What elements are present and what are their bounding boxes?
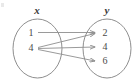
mapping-diagram-figure: x y 1 4 2 4 6 [0,0,134,84]
mapping-diagram-canvas: x y 1 4 2 4 6 [0,0,134,84]
range-set-label: y [103,4,110,16]
range-element-4: 4 [103,41,108,52]
figure-background [0,0,134,84]
range-element-6: 6 [103,55,108,66]
domain-element-4: 4 [29,42,34,53]
domain-element-1: 1 [29,27,34,38]
domain-set-label: x [33,4,40,16]
scan-artifact [1,3,4,7]
range-element-2: 2 [103,27,108,38]
